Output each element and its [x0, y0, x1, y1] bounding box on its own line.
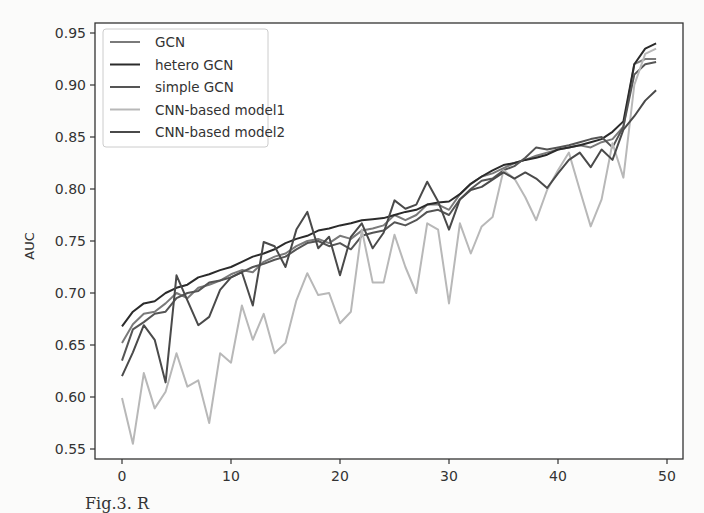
- legend-label: simple GCN: [155, 79, 234, 95]
- y-tick-label: 0.70: [55, 285, 86, 301]
- figure-caption: Fig.3. R: [85, 494, 149, 513]
- x-tick-label: 20: [331, 468, 349, 484]
- y-tick-label: 0.55: [55, 441, 86, 457]
- x-tick-label: 50: [658, 468, 676, 484]
- y-axis-label: AUC: [22, 232, 37, 260]
- y-axis: 0.550.600.650.700.750.800.850.900.95: [55, 25, 95, 457]
- x-tick-label: 40: [549, 468, 567, 484]
- y-tick-label: 0.65: [55, 337, 86, 353]
- y-tick-label: 0.75: [55, 233, 86, 249]
- legend-label: GCN: [155, 34, 185, 50]
- y-tick-label: 0.60: [55, 389, 86, 405]
- x-tick-label: 10: [222, 468, 240, 484]
- y-tick-label: 0.95: [55, 25, 86, 41]
- y-tick-label: 0.80: [55, 181, 86, 197]
- legend-label: hetero GCN: [155, 57, 233, 73]
- y-tick-label: 0.85: [55, 129, 86, 145]
- x-tick-label: 0: [118, 468, 127, 484]
- x-tick-label: 30: [440, 468, 458, 484]
- x-axis: 01020304050: [118, 459, 676, 484]
- y-tick-label: 0.90: [55, 77, 86, 93]
- legend-label: CNN-based model1: [155, 102, 285, 118]
- legend-label: CNN-based model2: [155, 124, 285, 140]
- legend: GCNhetero GCNsimple GCNCNN-based model1C…: [103, 29, 285, 147]
